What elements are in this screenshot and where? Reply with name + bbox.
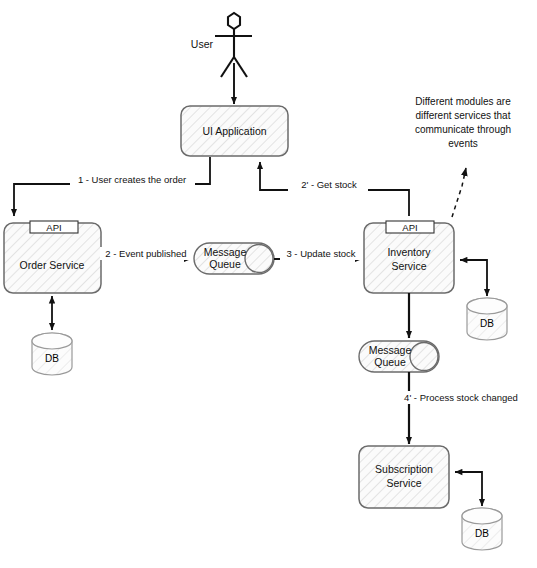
message-queue-1-label-line2: Queue	[209, 258, 241, 270]
edge-mq1-to-inventory: 3 - Update stock	[274, 247, 363, 260]
edge-mq2-to-subscription-label: 4' - Process stock changed	[404, 392, 518, 403]
db-inventory-label: DB	[480, 318, 494, 329]
subscription-service-label-line1: Subscription	[375, 463, 433, 475]
note-line-4: events	[448, 138, 477, 149]
order-service-label: Order Service	[20, 259, 85, 271]
node-db-order[interactable]: DB	[32, 333, 72, 375]
edge-order-to-mq1: 2 - Event published	[100, 247, 193, 260]
edge-order-to-mq1-label: 2 - Event published	[105, 248, 186, 259]
note-line-2: different services that	[416, 110, 511, 121]
ui-application-label: UI Application	[202, 125, 266, 137]
order-service-api-label: API	[46, 222, 61, 233]
inventory-service-api-label: API	[402, 222, 417, 233]
message-queue-2-label-line2: Queue	[374, 356, 406, 368]
db-subscription-top	[462, 508, 502, 524]
inventory-service-label-line1: Inventory	[387, 246, 431, 258]
edge-inventory-to-ui-label: 2' - Get stock	[301, 179, 357, 190]
node-db-inventory[interactable]: DB	[467, 298, 507, 340]
node-order-service[interactable]: API Order Service	[4, 221, 101, 293]
inventory-service-label-line2: Service	[391, 260, 426, 272]
architecture-diagram: User UI Application 1 - User creates the…	[0, 0, 537, 568]
message-queue-2-label-line1: Message	[369, 344, 412, 356]
message-queue-1-label-line1: Message	[204, 246, 247, 258]
edge-ui-to-order-label: 1 - User creates the order	[78, 174, 186, 185]
note-line-1: Different modules are	[415, 96, 511, 107]
node-message-queue-1[interactable]: Message Queue	[194, 243, 274, 274]
node-db-subscription[interactable]: DB	[462, 508, 502, 550]
node-inventory-service[interactable]: API Inventory Service	[364, 221, 454, 293]
subscription-service-label-line2: Service	[386, 477, 421, 489]
node-ui-application[interactable]: UI Application	[181, 106, 288, 156]
db-order-top	[32, 333, 72, 349]
node-message-queue-2[interactable]: Message Queue	[359, 341, 439, 372]
actor-user-label: User	[191, 38, 214, 50]
node-subscription-service[interactable]: Subscription Service	[359, 446, 449, 508]
message-queue-1-cap	[245, 245, 273, 273]
db-inventory-top	[467, 298, 507, 314]
db-order-label: DB	[45, 353, 59, 364]
db-subscription-label: DB	[475, 528, 489, 539]
note-line-3: communicate through	[415, 124, 511, 135]
message-queue-2-cap	[410, 343, 438, 371]
edge-mq1-to-inventory-label: 3 - Update stock	[286, 248, 355, 259]
